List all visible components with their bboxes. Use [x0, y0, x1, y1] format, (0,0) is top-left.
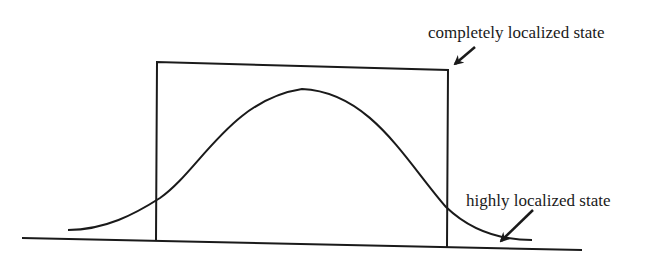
localization-diagram: completely localized state highly locali… [0, 0, 656, 267]
arrow-completely-localized-icon [455, 47, 475, 64]
bell-curve-wavefunction [68, 89, 532, 240]
highly-localized-label: highly localized state [466, 192, 610, 209]
arrow-highly-localized-icon [501, 210, 533, 241]
baseline-axis [22, 238, 582, 250]
completely-localized-label: completely localized state [428, 24, 605, 41]
